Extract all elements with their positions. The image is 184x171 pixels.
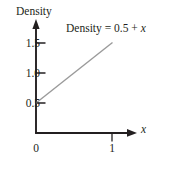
y-axis-tick-label: 1.0 [14,68,40,80]
x-axis-title: x [141,124,146,136]
y-axis-tick-label: 1.5 [14,38,40,50]
equation-annotation: Density = 0.5 + x [66,23,146,35]
equation-annotation-variable: x [141,22,146,34]
equation-annotation-text: Density = 0.5 + [66,22,141,34]
density-line-series [36,43,113,104]
y-axis-title: Density [16,6,52,18]
x-axis-tick-label: 1 [102,143,122,155]
x-axis-arrowhead [127,129,137,137]
x-axis-tick-label: 0 [26,143,46,155]
y-axis-tick-label: 0.5 [14,98,40,110]
density-line-chart: Density Density = 0.5 + x 1.5 1.0 0.5 0 … [0,0,184,171]
